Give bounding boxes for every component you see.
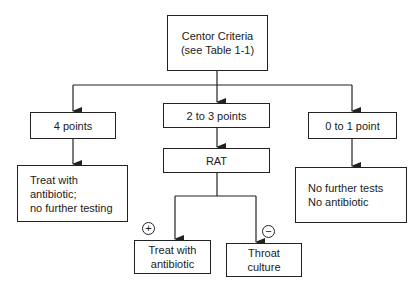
node-label: Treat with antibiotic — [149, 243, 197, 271]
node-no-tests-no-antibiotic: No further tests No antibiotic — [295, 167, 407, 223]
node-label: 2 to 3 points — [187, 109, 247, 123]
node-label: RAT — [206, 154, 227, 168]
node-rat: RAT — [163, 148, 270, 173]
node-4-points: 4 points — [30, 112, 116, 139]
node-label: Throat culture — [247, 246, 280, 274]
node-label: Treat with antibiotic; no further testin… — [30, 173, 113, 215]
node-label: 0 to 1 point — [325, 119, 379, 133]
node-throat-culture: Throat culture — [226, 243, 302, 277]
node-2-to-3-points: 2 to 3 points — [163, 103, 270, 128]
node-label: 4 points — [54, 119, 93, 133]
node-0-to-1-point: 0 to 1 point — [308, 112, 397, 139]
node-label: No further tests No antibiotic — [308, 181, 383, 209]
node-label: Centor Criteria (see Table 1-1) — [181, 29, 254, 57]
negative-result-icon: − — [262, 225, 275, 238]
positive-result-icon: + — [142, 222, 155, 235]
node-treat-no-further-testing: Treat with antibiotic; no further testin… — [17, 165, 128, 222]
node-treat-with-antibiotic: Treat with antibiotic — [134, 240, 211, 274]
node-centor-criteria: Centor Criteria (see Table 1-1) — [167, 15, 268, 71]
